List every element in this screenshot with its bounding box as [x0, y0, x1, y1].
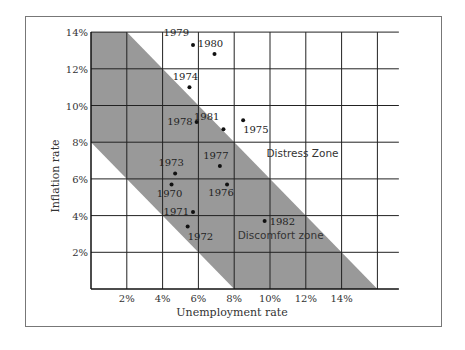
- y-axis-label: Inflation rate: [49, 139, 62, 212]
- data-point-1974: [187, 85, 191, 89]
- data-point-1979: [191, 43, 195, 47]
- point-label-1975: 1975: [243, 124, 268, 135]
- y-tick-label: 12%: [66, 64, 88, 75]
- y-tick-label: 2%: [72, 247, 88, 258]
- y-tick-label: 10%: [66, 101, 88, 112]
- data-point-1981: [221, 127, 225, 131]
- point-label-1982: 1982: [270, 216, 295, 227]
- x-tick-label: 4%: [155, 293, 171, 304]
- data-point-1971: [191, 210, 195, 214]
- discomfort-zone-label: Discomfort zone: [238, 229, 324, 241]
- x-tick-label: 12%: [295, 293, 317, 304]
- point-label-1974: 1974: [173, 71, 198, 82]
- y-tick-label: 14%: [66, 27, 88, 38]
- data-point-1970: [170, 182, 174, 186]
- x-tick-label: 8%: [226, 293, 242, 304]
- distress-zone-label: Distress Zone: [266, 147, 338, 159]
- data-point-1972: [186, 225, 190, 229]
- data-point-1977: [218, 164, 222, 168]
- point-label-1971: 1971: [164, 206, 189, 217]
- data-point-1982: [263, 219, 267, 223]
- y-tick-label: 4%: [72, 211, 88, 222]
- x-axis-label: Unemployment rate: [176, 306, 287, 319]
- point-label-1980: 1980: [198, 38, 223, 49]
- y-tick-label: 6%: [72, 174, 88, 185]
- x-tick-label: 14%: [330, 293, 352, 304]
- y-tick-label: 8%: [72, 137, 88, 148]
- point-label-1973: 1973: [158, 157, 183, 168]
- x-tick-label: 2%: [119, 293, 135, 304]
- point-label-1977: 1977: [203, 150, 228, 161]
- point-label-1970: 1970: [157, 188, 182, 199]
- point-label-1979: 1979: [164, 27, 189, 38]
- x-tick-label: 6%: [190, 293, 206, 304]
- point-label-1978: 1978: [167, 116, 192, 127]
- x-tick-label: 10%: [259, 293, 281, 304]
- data-point-1973: [173, 171, 177, 175]
- point-label-1972: 1972: [188, 231, 213, 242]
- data-point-1975: [241, 118, 245, 122]
- data-point-1976: [225, 182, 229, 186]
- data-point-1980: [213, 52, 217, 56]
- unemployment-inflation-chart: 2%4%6%8%10%12%14%2%4%6%8%10%12%14% 19701…: [0, 0, 465, 350]
- point-label-1981: 1981: [194, 111, 219, 122]
- point-label-1976: 1976: [208, 187, 233, 198]
